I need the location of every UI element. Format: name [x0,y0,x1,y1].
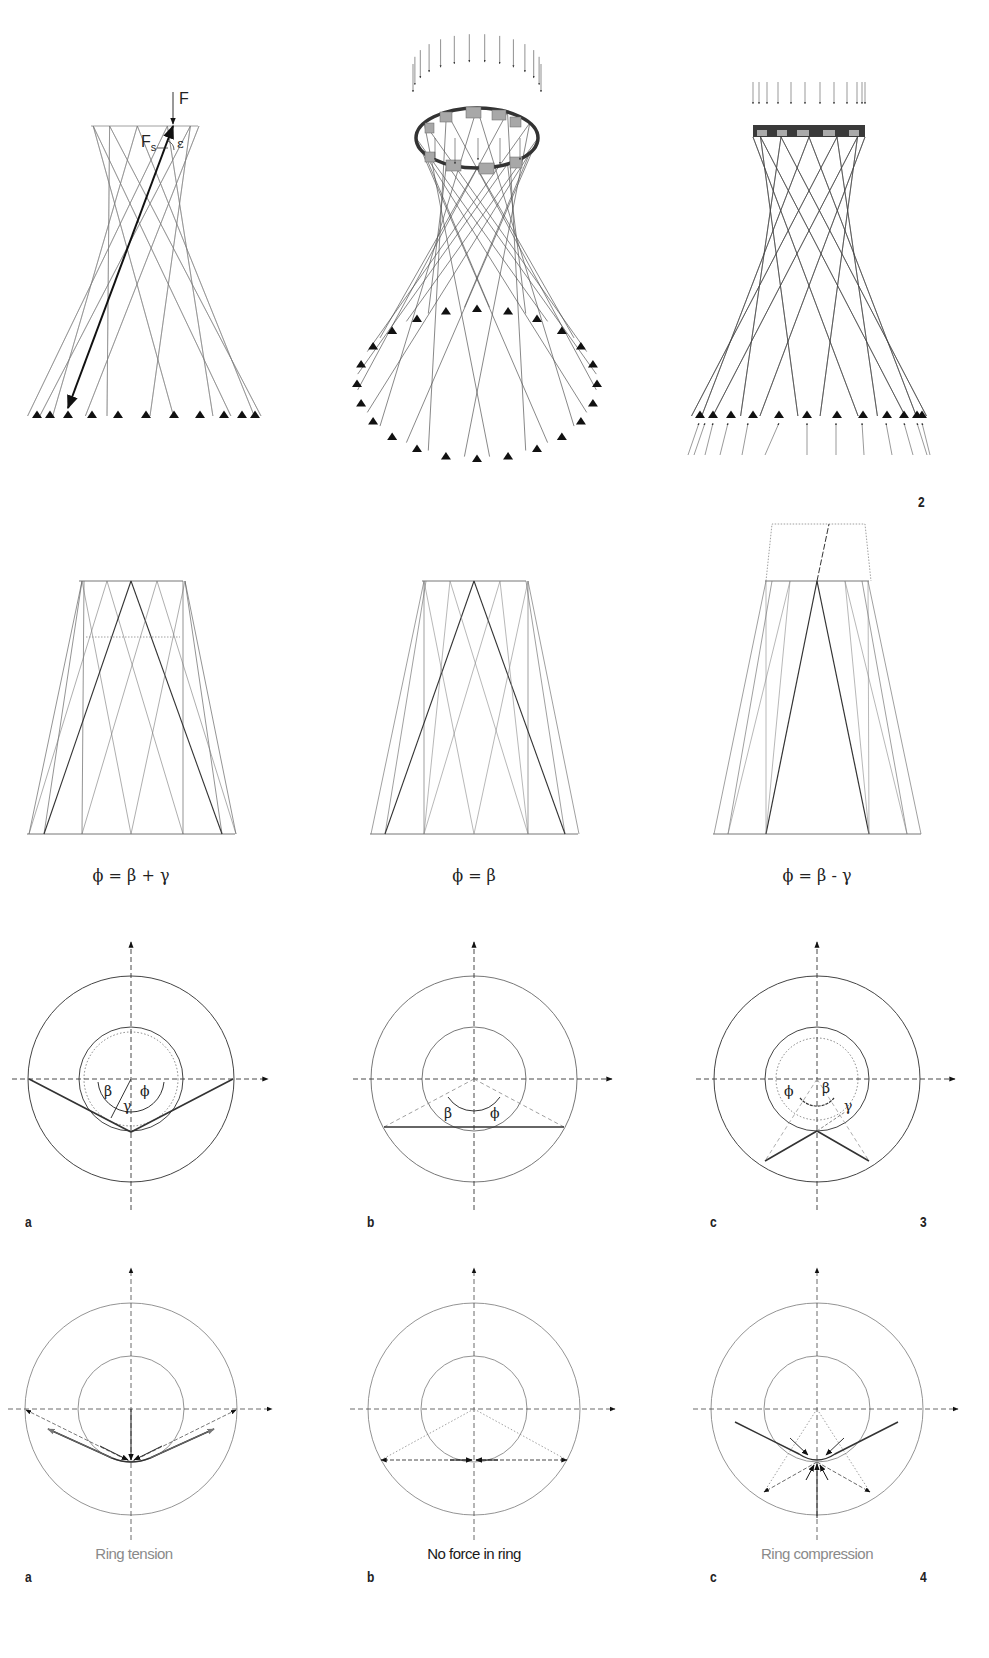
epsilon-angle-label: ε [177,136,184,151]
gamma-label-3c: γ [844,1098,852,1114]
member-force-subscript: s [151,141,157,153]
figure-3c-plan [696,942,955,1210]
gamma-label-3a: γ [123,1098,131,1114]
figure-2c-ring-beam [753,125,865,137]
caption-ring-tension: Ring tension [95,1545,172,1562]
figure-3-elevations [27,524,921,834]
figure-3a-plan [12,942,268,1210]
figure-4a-plan [8,1268,272,1540]
figure-2-number: 2 [918,493,925,510]
panel-label-4c: c [710,1568,717,1585]
figure-2b-tower [352,108,602,462]
beta-label-3b: β [444,1105,452,1121]
figure-2a-tower [28,126,261,418]
phi-label-3c: ϕ [784,1083,794,1099]
panel-label-3c: c [710,1213,717,1230]
panel-label-3a: a [25,1213,32,1230]
formula-3b: ϕ = β [452,866,496,885]
formula-3a: ϕ = β + γ [93,866,170,885]
diagram-canvas [0,0,989,1658]
beta-label-3a: β [104,1083,112,1099]
force-label-f: F [179,90,189,108]
figure-2b-load-arrows [413,34,541,164]
panel-label-3b: b [367,1213,374,1230]
member-force-label-fs: Fs [141,133,156,153]
figure-3-number: 3 [920,1213,927,1230]
figure-3b-plan [353,942,612,1210]
figure-2c-tower [692,137,928,418]
beta-label-3c: β [822,1080,830,1096]
figure-4b-plan [350,1268,615,1540]
phi-label-3b: ϕ [490,1105,500,1121]
figure-4c-plan [693,1268,958,1540]
figure-2c-load-arrows [688,82,930,455]
caption-ring-compression: Ring compression [761,1545,873,1562]
phi-label-3a: ϕ [140,1083,150,1099]
caption-no-force-in-ring: No force in ring [427,1545,521,1562]
panel-label-4b: b [367,1568,374,1585]
member-force-f: F [141,133,151,150]
formula-3c: ϕ = β - γ [783,866,852,885]
panel-label-4a: a [25,1568,32,1585]
figure-4-number: 4 [920,1568,927,1585]
